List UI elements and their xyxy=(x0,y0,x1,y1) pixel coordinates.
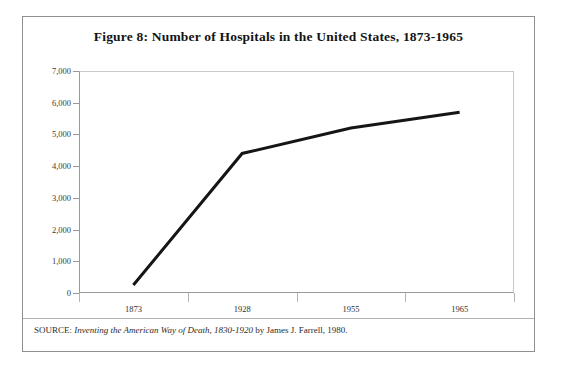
x-axis-tick-mark xyxy=(514,293,515,302)
x-axis-tick-label: 1873 xyxy=(125,304,142,314)
page-title: Figure 8: Number of Hospitals in the Uni… xyxy=(23,29,534,45)
source-prefix: SOURCE: xyxy=(34,325,74,335)
y-axis-tick-label: 6,000 xyxy=(52,98,71,108)
source-note: SOURCE: Inventing the American Way of De… xyxy=(34,325,347,335)
x-axis-tick-mark xyxy=(188,293,189,302)
x-axis-tick-mark xyxy=(405,293,406,302)
x-axis-tick-label: 1955 xyxy=(342,304,359,314)
y-axis-tick-label: 4,000 xyxy=(52,161,71,171)
y-axis-tick-label: 3,000 xyxy=(52,193,71,203)
x-axis-tick-mark xyxy=(79,293,80,302)
figure-container: Figure 8: Number of Hospitals in the Uni… xyxy=(22,16,535,352)
source-title: Inventing the American Way of Death, 183… xyxy=(74,325,253,335)
y-axis-tick-label: 0 xyxy=(67,288,71,298)
source-divider xyxy=(23,318,534,319)
x-axis-tick-mark xyxy=(297,293,298,302)
y-axis-tick-label: 2,000 xyxy=(52,225,71,235)
y-axis-tick-label: 5,000 xyxy=(52,129,71,139)
y-axis-tick-label: 7,000 xyxy=(52,66,71,76)
chart-plot-area: 01,0002,0003,0004,0005,0006,0007,000 187… xyxy=(79,71,514,293)
x-axis-tick-label: 1928 xyxy=(234,304,251,314)
source-suffix: by James J. Farrell, 1980. xyxy=(253,325,348,335)
line-series xyxy=(79,71,514,293)
y-axis-tick-label: 1,000 xyxy=(52,256,71,266)
x-axis-tick-label: 1965 xyxy=(451,304,468,314)
